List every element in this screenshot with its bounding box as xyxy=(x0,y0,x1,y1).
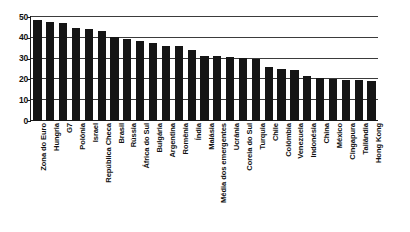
y-tick-label-10: 10 xyxy=(2,96,28,105)
x-label-text: Bulgária xyxy=(156,123,164,153)
bar xyxy=(303,76,311,121)
bar xyxy=(59,23,67,121)
x-label-text: Turquia xyxy=(259,123,267,150)
bar xyxy=(200,56,208,121)
bar xyxy=(290,70,298,121)
x-label-text: Indonésia xyxy=(310,123,318,158)
x-label-text: G7 xyxy=(66,123,74,133)
y-tick-label-40: 40 xyxy=(2,33,28,42)
gridline-50 xyxy=(31,16,378,17)
bar xyxy=(226,57,234,121)
x-label-text: Argentina xyxy=(169,123,177,158)
x-label-text: Média dos emergentes xyxy=(220,123,228,203)
gridline-40 xyxy=(31,37,378,38)
x-axis-label: Zona do Euro xyxy=(40,123,48,171)
y-tick-label-50: 50 xyxy=(2,13,28,22)
x-axis-label: Índia xyxy=(195,123,203,140)
x-axis-label: Argentina xyxy=(169,123,177,158)
bar xyxy=(316,78,324,121)
x-axis-label: Turquia xyxy=(259,123,267,150)
y-tick-label-20: 20 xyxy=(2,75,28,84)
bar xyxy=(239,58,247,121)
x-axis-label: Romênia xyxy=(182,123,190,154)
bar xyxy=(213,56,221,121)
x-label-text: Hungria xyxy=(53,123,61,151)
x-label-text: Tailândia xyxy=(362,123,370,154)
x-axis-label: China xyxy=(323,123,331,144)
y-tick-label-30: 30 xyxy=(2,54,28,63)
x-label-text: Índia xyxy=(195,123,203,140)
x-axis-label: Venezuela xyxy=(297,123,305,159)
bar xyxy=(33,20,41,121)
x-label-text: África do Sul xyxy=(143,123,151,169)
bar xyxy=(110,37,118,121)
x-axis-label: G7 xyxy=(66,123,74,133)
x-label-text: Zona do Euro xyxy=(40,123,48,171)
y-tick-label-0: 0 xyxy=(2,117,28,126)
x-axis-label: Polônia xyxy=(79,123,87,150)
x-label-text: México xyxy=(336,123,344,148)
bar xyxy=(265,67,273,121)
x-label-text: China xyxy=(323,123,331,144)
bar xyxy=(342,80,350,121)
x-label-text: Israel xyxy=(92,123,100,142)
bar xyxy=(136,41,144,121)
x-axis-label: Israel xyxy=(92,123,100,142)
x-label-text: Brasil xyxy=(118,123,126,144)
x-label-text: Cingapura xyxy=(349,123,357,160)
bar xyxy=(355,80,363,121)
x-axis-label: Hong Kong xyxy=(375,123,383,163)
bar xyxy=(149,43,157,121)
bar xyxy=(85,29,93,121)
plot-area xyxy=(31,17,378,121)
x-axis-label: Indonésia xyxy=(310,123,318,158)
x-label-text: Chile xyxy=(272,123,280,141)
x-axis-label: Ucrânia xyxy=(233,123,241,150)
x-axis-label: Colômbia xyxy=(285,123,293,157)
bar-chart-figure: 01020304050 Zona do EuroHungriaG7Polônia… xyxy=(0,0,410,232)
x-label-text: Malásia xyxy=(208,123,216,150)
x-axis-label: Coreia do Sul xyxy=(246,123,254,171)
x-label-text: Ucrânia xyxy=(233,123,241,150)
x-axis-label: Chile xyxy=(272,123,280,141)
bar xyxy=(98,31,106,121)
x-axis-label: República Checa xyxy=(105,123,113,183)
x-axis-label: Bulgária xyxy=(156,123,164,153)
bar xyxy=(367,81,375,121)
bar xyxy=(175,46,183,121)
x-axis-label: Hungria xyxy=(53,123,61,151)
x-label-text: Coreia do Sul xyxy=(246,123,254,171)
x-label-text: República Checa xyxy=(105,123,113,183)
x-axis-label: Brasil xyxy=(118,123,126,144)
x-label-text: Rússia xyxy=(130,123,138,147)
bar xyxy=(123,39,131,121)
x-axis-category-labels: Zona do EuroHungriaG7PolôniaIsraelRepúbl… xyxy=(31,123,378,231)
x-label-text: Colômbia xyxy=(285,123,293,157)
bar xyxy=(72,28,80,121)
bar xyxy=(46,22,54,121)
x-label-text: Romênia xyxy=(182,123,190,154)
bar xyxy=(188,50,196,121)
x-axis-label: Média dos emergentes xyxy=(220,123,228,203)
bar xyxy=(277,69,285,121)
bar xyxy=(162,46,170,121)
x-label-text: Venezuela xyxy=(297,123,305,159)
x-axis-label: Tailândia xyxy=(362,123,370,154)
y-axis-tick-labels: 01020304050 xyxy=(0,0,28,232)
x-axis-label: Rússia xyxy=(130,123,138,147)
x-label-text: Hong Kong xyxy=(375,123,383,163)
bar xyxy=(252,59,260,121)
x-axis-label: África do Sul xyxy=(143,123,151,169)
bar xyxy=(329,79,337,121)
x-axis-label: México xyxy=(336,123,344,148)
x-axis-label: Malásia xyxy=(208,123,216,150)
x-label-text: Polônia xyxy=(79,123,87,150)
x-axis-label: Cingapura xyxy=(349,123,357,160)
